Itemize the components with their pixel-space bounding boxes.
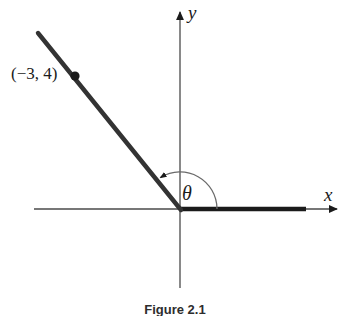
terminal-side-ray: [38, 33, 181, 210]
y-axis-label: y: [188, 3, 196, 22]
point-coordinate-label: (−3, 4): [11, 65, 57, 82]
figure-caption: Figure 2.1: [0, 303, 350, 316]
point-marker: [70, 71, 79, 80]
x-axis-label: x: [324, 185, 332, 204]
angle-theta-label: θ: [182, 183, 192, 203]
